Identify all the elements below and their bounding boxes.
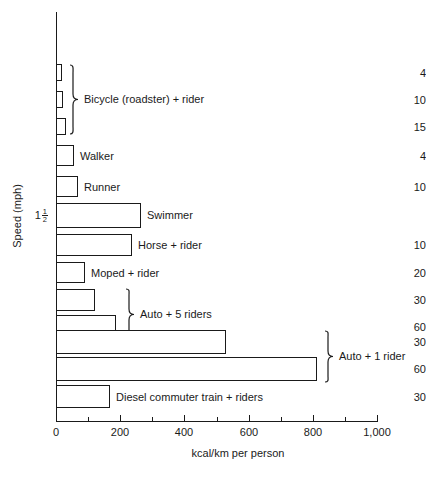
x-tick-label-1000: 1,000 — [363, 425, 391, 439]
x-tick-700 — [281, 417, 282, 422]
y-label-bicycle-10: 10 — [378, 94, 426, 106]
y-label-moped: 20 — [378, 267, 426, 279]
bracket-label-auto5: Auto + 5 riders — [140, 308, 212, 320]
bar-auto1-30 — [56, 330, 226, 354]
y-label-runner: 10 — [378, 181, 426, 193]
x-tick-500 — [217, 417, 218, 422]
y-label-auto5-30: 30 — [378, 294, 426, 306]
bar-bicycle-15 — [56, 118, 66, 135]
bar-label-swimmer: Swimmer — [147, 209, 193, 221]
x-tick-label-200: 200 — [111, 425, 129, 439]
y-label-train: 30 — [378, 391, 426, 403]
bar-label-horse: Horse + rider — [138, 239, 202, 251]
bar-runner — [56, 176, 78, 197]
y-label-walker: 4 — [378, 150, 426, 162]
bar-swimmer — [56, 203, 141, 228]
bracket-label-auto1: Auto + 1 rider — [339, 350, 405, 362]
bracket-auto1 — [323, 330, 335, 383]
x-tick-label-800: 800 — [304, 425, 322, 439]
y-label-bicycle-15: 15 — [378, 121, 426, 133]
bracket-label-bicycle: Bicycle (roadster) + rider — [84, 93, 204, 105]
bar-walker — [56, 145, 74, 166]
x-tick-label-600: 600 — [240, 425, 258, 439]
bar-bicycle-4 — [56, 64, 62, 81]
bar-train — [56, 385, 110, 408]
y-label-swimmer: 112 — [0, 208, 52, 224]
bar-label-train: Diesel commuter train + riders — [116, 391, 263, 403]
bar-horse — [56, 234, 132, 256]
fraction-denominator: 2 — [42, 216, 48, 224]
bar-label-walker: Walker — [80, 150, 114, 162]
y-label-auto1-30: 30 — [378, 336, 426, 348]
x-tick-600 — [249, 415, 250, 422]
bar-auto5-30 — [56, 289, 95, 311]
x-tick-900 — [345, 417, 346, 422]
x-tick-800 — [313, 415, 314, 422]
bracket-bicycle — [68, 64, 80, 135]
x-tick-300 — [152, 417, 153, 422]
bar-moped — [56, 262, 85, 283]
y-label-bicycle-4: 4 — [378, 67, 426, 79]
y-label-swimmer-fraction: 12 — [42, 208, 48, 224]
x-tick-200 — [120, 415, 121, 422]
x-tick-label-0: 0 — [53, 425, 59, 439]
y-label-swimmer-whole: 1 — [35, 209, 41, 221]
y-label-auto5-60: 60 — [378, 321, 426, 333]
x-tick-100 — [88, 417, 89, 422]
bar-auto1-60 — [56, 357, 317, 381]
bar-chart: 0 200 400 600 800 1,000 kcal/km per pers… — [0, 0, 426, 478]
bar-bicycle-10 — [56, 91, 63, 108]
x-tick-400 — [184, 415, 185, 422]
y-label-auto1-60: 60 — [378, 363, 426, 375]
x-tick-label-400: 400 — [175, 425, 193, 439]
bar-label-runner: Runner — [84, 181, 120, 193]
x-tick-1000 — [377, 415, 378, 422]
x-tick-0 — [56, 415, 57, 422]
x-axis-title: kcal/km per person — [0, 447, 426, 459]
bar-label-moped: Moped + rider — [91, 267, 159, 279]
y-label-horse: 10 — [378, 239, 426, 251]
